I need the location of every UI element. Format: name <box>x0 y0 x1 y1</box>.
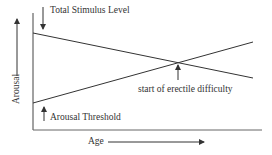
arousal-threshold-label: Arousal Threshold <box>50 113 121 123</box>
total-stimulus-label: Total Stimulus Level <box>50 6 130 16</box>
diagram-canvas <box>0 0 272 155</box>
total-stimulus-line <box>33 33 253 78</box>
intersection-label: start of erectile difficulty <box>138 85 233 95</box>
y-axis-label: Arousal <box>12 74 22 104</box>
x-axis-label: Age <box>88 137 104 147</box>
